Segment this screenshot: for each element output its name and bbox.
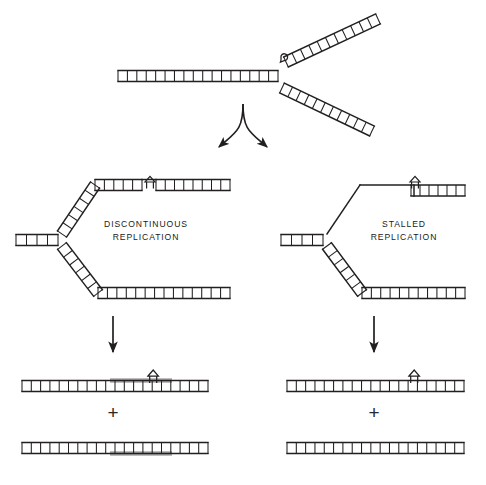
plus-symbol-right: +	[368, 402, 379, 423]
figure-root: DISCONTINUOUS REPLICATION STALLED REPLIC…	[0, 0, 486, 485]
discontinuous-label-line1: DISCONTINUOUS	[104, 219, 188, 229]
replication-diagram: DISCONTINUOUS REPLICATION STALLED REPLIC…	[0, 0, 486, 485]
plus-symbol-left: +	[107, 402, 118, 423]
discontinuous-label-line2: REPLICATION	[113, 232, 180, 242]
stalled-label-line2: REPLICATION	[371, 232, 438, 242]
stalled-label-line1: STALLED	[382, 219, 426, 229]
canvas-background	[0, 0, 486, 485]
